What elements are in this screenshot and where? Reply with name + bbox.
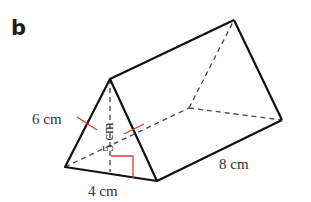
label-height: 5 cm (100, 122, 116, 152)
visible-edges (65, 20, 282, 181)
label-length: 8 cm (219, 156, 249, 172)
label-slant-side: 6 cm (32, 111, 62, 127)
hidden-edges (65, 20, 282, 172)
equal-tick-left (77, 117, 97, 130)
triangular-prism-diagram: 6 cm 5 cm 4 cm 8 cm (0, 0, 311, 202)
label-base: 4 cm (88, 183, 118, 199)
